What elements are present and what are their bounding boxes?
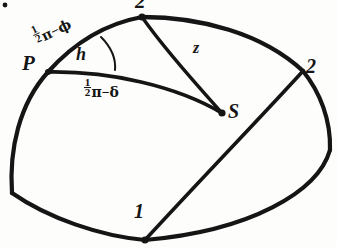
angle-arc-h	[101, 37, 115, 70]
star-point-dot	[218, 109, 225, 116]
ink-speck	[3, 3, 8, 8]
arc-right-outer-lower	[145, 150, 330, 240]
bottom-vertex-label: 1	[134, 201, 144, 221]
arc-right-to-bottom	[145, 71, 303, 240]
polardistance-pi-symbol: π	[91, 84, 101, 100]
polar-distance-label: 1 2 π−δ	[84, 78, 119, 100]
arc-right-outer-upper	[303, 71, 330, 150]
arc-bottom-to-left	[12, 193, 145, 240]
top-vertex-dot	[138, 13, 145, 20]
right-vertex-label: 2	[306, 56, 316, 76]
arc-top-to-right	[142, 17, 303, 71]
polardistance-delta-symbol: δ	[110, 84, 119, 100]
arc-left-outer	[11, 72, 48, 193]
arc-zenithdistance-top-to-S	[142, 17, 222, 113]
polardistance-minus-sign: −	[102, 85, 110, 100]
arc-polardistance-P-to-S	[48, 72, 222, 113]
pole-point-dot	[45, 69, 51, 75]
star-point-label: S	[228, 101, 239, 121]
figure-root: P S 2 2 1 z h 1 2 π−ϕ 1 2 π−δ	[0, 0, 337, 247]
angle-h-label: h	[76, 45, 86, 63]
polardistance-fraction: 1 2	[84, 78, 91, 98]
polardistance-denominator: 2	[84, 88, 91, 98]
bottom-vertex-dot	[141, 236, 148, 243]
zenith-distance-label: z	[193, 40, 199, 56]
pole-point-label: P	[22, 53, 35, 74]
top-vertex-label: 2	[135, 0, 146, 12]
